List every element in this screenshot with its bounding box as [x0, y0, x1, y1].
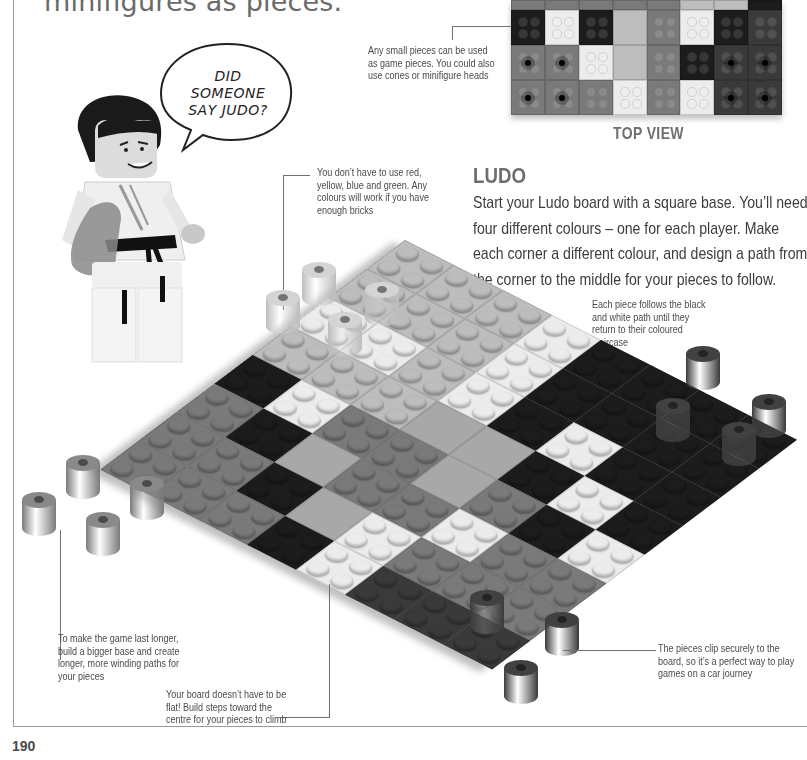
top-view-cell: [680, 10, 714, 45]
callout-colours: You don’t have to use red, yellow, blue …: [317, 166, 437, 216]
bubble-line: DID: [163, 68, 293, 85]
piece-top-icon: [758, 56, 772, 70]
top-view-cell: [748, 0, 782, 10]
game-piece: [266, 290, 300, 334]
top-view-cell: [511, 0, 545, 10]
page-border-left: [13, 0, 14, 727]
callout-small-pieces: Any small pieces can be used as game pie…: [368, 44, 497, 82]
game-piece: [328, 312, 362, 356]
game-piece: [470, 590, 504, 634]
top-view-cell: [545, 10, 579, 45]
game-piece: [302, 262, 336, 306]
section-title: LUDO: [473, 163, 526, 189]
top-view-cell: [647, 10, 681, 45]
top-view-cell: [680, 45, 714, 80]
game-piece: [365, 282, 399, 326]
top-view-cell: [748, 80, 782, 115]
top-view-cell: [647, 45, 681, 80]
callout-clip: The pieces clip securely to the board, s…: [658, 642, 796, 680]
top-view-cell: [613, 10, 647, 45]
leader-line: [452, 26, 453, 40]
page-border-bottom: [13, 726, 807, 727]
game-piece: [66, 455, 100, 499]
top-view-cell: [647, 0, 681, 10]
top-view-cell: [748, 45, 782, 80]
callout-path: Each piece follows the black and white p…: [592, 298, 712, 348]
top-view-cell: [579, 10, 613, 45]
piece-top-icon: [724, 91, 738, 105]
judo-minifigure-image: [50, 90, 210, 390]
top-view-cell: [748, 10, 782, 45]
top-view-cell: [714, 45, 748, 80]
section-body: Start your Ludo board with a square base…: [473, 190, 807, 292]
top-view-cell: [545, 80, 579, 115]
top-view-image: [511, 0, 782, 115]
top-view-cell: [511, 80, 545, 115]
piece-top-icon: [555, 91, 569, 105]
piece-top-icon: [555, 56, 569, 70]
top-view-cell: [714, 10, 748, 45]
top-view-cell: [613, 45, 647, 80]
game-piece: [22, 492, 56, 536]
callout-steps: Your board doesn’t have to be flat! Buil…: [166, 688, 295, 726]
game-piece: [686, 346, 720, 390]
page-number: 190: [12, 738, 35, 754]
top-view-cell: [511, 10, 545, 45]
top-view-cell: [714, 80, 748, 115]
top-view-cell: [545, 45, 579, 80]
intro-text-tail: minifigures as pieces.: [44, 0, 342, 17]
top-view-label: TOP VIEW: [613, 124, 684, 144]
top-view-cell: [579, 45, 613, 80]
game-piece: [656, 398, 690, 442]
top-view-cell: [613, 0, 647, 10]
top-view-cell: [579, 0, 613, 10]
top-view-cell: [647, 80, 681, 115]
top-view-cell: [680, 0, 714, 10]
game-piece: [504, 660, 538, 704]
leader-line: [452, 26, 511, 27]
piece-top-icon: [521, 56, 535, 70]
leader-line: [329, 584, 330, 718]
callout-longer-game: To make the game last longer, build a bi…: [58, 632, 196, 682]
leader-line: [563, 650, 656, 651]
top-view-cell: [714, 0, 748, 10]
top-view-cell: [545, 0, 579, 10]
top-view-cell: [579, 80, 613, 115]
piece-top-icon: [724, 56, 738, 70]
piece-top-icon: [758, 91, 772, 105]
game-piece: [752, 394, 786, 438]
game-piece: [86, 512, 120, 556]
piece-top-icon: [521, 91, 535, 105]
top-view-cell: [680, 80, 714, 115]
game-piece: [130, 476, 164, 520]
top-view-cell: [613, 80, 647, 115]
top-view-cell: [511, 45, 545, 80]
leader-line: [283, 175, 310, 176]
game-piece: [722, 422, 756, 466]
